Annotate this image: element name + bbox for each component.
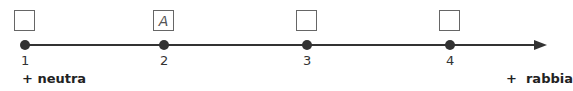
- arrow-head-icon: [534, 40, 547, 50]
- checkbox-3[interactable]: [296, 10, 317, 31]
- checkbox-1[interactable]: [14, 10, 35, 31]
- checkbox-2[interactable]: A: [153, 10, 174, 31]
- point-4: [445, 40, 455, 50]
- left-label: + neutra: [22, 71, 86, 86]
- point-number-1: 1: [21, 53, 29, 68]
- point-number-3: 3: [303, 53, 311, 68]
- scale-line: [25, 44, 537, 46]
- checkbox-4[interactable]: [439, 10, 460, 31]
- point-number-4: 4: [446, 53, 454, 68]
- right-label: + rabbia: [506, 71, 573, 86]
- point-number-2: 2: [160, 53, 168, 68]
- point-3: [302, 40, 312, 50]
- point-1: [20, 40, 30, 50]
- point-2: [159, 40, 169, 50]
